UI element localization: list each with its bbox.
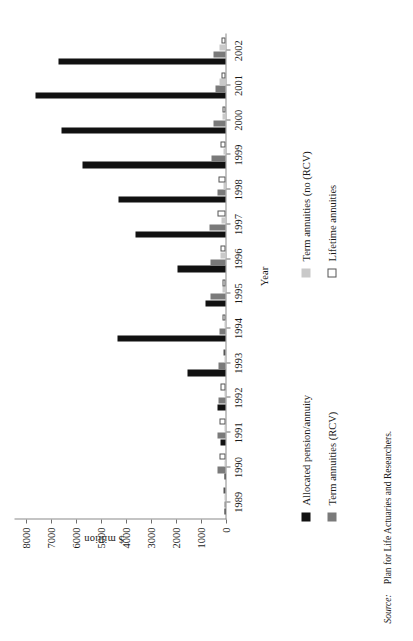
bar bbox=[210, 259, 225, 265]
x-tick-label: 1996 bbox=[232, 248, 243, 269]
x-tick-label: 1991 bbox=[232, 422, 243, 443]
bar bbox=[209, 224, 225, 230]
x-tick-label: 2001 bbox=[232, 75, 243, 96]
x-tick-mark bbox=[226, 327, 230, 328]
x-tick: 1991 bbox=[226, 415, 256, 450]
x-tick: 1992 bbox=[226, 380, 256, 415]
chart-legend: Allocated pension/annuityTerm annuities … bbox=[300, 51, 337, 521]
x-tick-mark bbox=[226, 84, 230, 85]
source-label: Source: bbox=[382, 594, 392, 623]
y-tick-mark bbox=[101, 519, 102, 523]
x-tick: 1997 bbox=[226, 207, 256, 242]
x-tick-mark bbox=[226, 431, 230, 432]
bar bbox=[223, 487, 225, 493]
bar-group bbox=[14, 241, 225, 276]
x-tick: 1995 bbox=[226, 276, 256, 311]
bar bbox=[217, 404, 225, 410]
bar bbox=[224, 425, 225, 431]
bar bbox=[213, 51, 225, 57]
bar-group bbox=[14, 310, 225, 345]
bar-group bbox=[14, 276, 225, 311]
x-tick-mark bbox=[226, 396, 230, 397]
x-tick-mark bbox=[226, 223, 230, 224]
bar bbox=[221, 217, 225, 223]
x-axis-title: Year bbox=[258, 33, 269, 519]
bar bbox=[219, 418, 225, 424]
source-note: Source: Plan for Life Actuaries and Rese… bbox=[382, 430, 392, 623]
legend-item: Term annuities (RCV) bbox=[326, 295, 337, 521]
bar bbox=[210, 293, 225, 299]
y-tick-mark bbox=[176, 519, 177, 523]
x-axis-tick-labels: 1989199019911992199319941995199619971998… bbox=[226, 33, 256, 519]
source-text: Plan for Life Actuaries and Researchers. bbox=[382, 430, 392, 584]
bar bbox=[224, 508, 225, 514]
bar bbox=[211, 155, 225, 161]
bar-group bbox=[14, 414, 225, 449]
filled-darkgray-swatch bbox=[327, 512, 336, 521]
bar bbox=[218, 176, 225, 182]
x-tick-label: 1989 bbox=[232, 491, 243, 512]
x-tick-label: 1993 bbox=[232, 352, 243, 373]
bar bbox=[82, 162, 225, 168]
bar-groups bbox=[14, 33, 225, 518]
x-tick-label: 2002 bbox=[232, 40, 243, 61]
x-tick-mark bbox=[226, 153, 230, 154]
y-tick-label: 0 bbox=[221, 527, 232, 532]
filled-lightgray-swatch bbox=[301, 268, 310, 277]
legend-item: Term annuities (no (RCV) bbox=[300, 51, 311, 277]
y-tick-label: 1000 bbox=[196, 527, 207, 548]
x-tick-label: 1998 bbox=[232, 179, 243, 200]
x-tick: 1996 bbox=[226, 241, 256, 276]
x-tick: 2000 bbox=[226, 102, 256, 137]
bar-group bbox=[14, 345, 225, 380]
bar bbox=[222, 314, 225, 320]
legend-item: Lifetime annuities bbox=[326, 51, 337, 277]
x-tick-label: 2000 bbox=[232, 109, 243, 130]
legend-label: Allocated pension/annuity bbox=[300, 394, 311, 505]
plot-wrapper: $ million 010002000300040005000600070008… bbox=[14, 33, 262, 563]
bar bbox=[222, 286, 225, 292]
x-tick-mark bbox=[226, 466, 230, 467]
y-tick-mark bbox=[76, 519, 77, 523]
x-tick-label: 1999 bbox=[232, 144, 243, 165]
figure-page: $ million 010002000300040005000600070008… bbox=[0, 0, 413, 641]
bar bbox=[221, 37, 225, 43]
bar bbox=[222, 113, 225, 119]
bar bbox=[220, 439, 225, 445]
bar bbox=[61, 127, 225, 133]
x-tick-label: 1995 bbox=[232, 283, 243, 304]
x-tick: 1993 bbox=[226, 345, 256, 380]
bar bbox=[224, 356, 225, 362]
x-tick-label: 1994 bbox=[232, 318, 243, 339]
bar bbox=[35, 92, 225, 98]
bar bbox=[58, 58, 225, 64]
legend-label: Term annuities (no (RCV) bbox=[300, 151, 311, 261]
bar-chart-figure: $ million 010002000300040005000600070008… bbox=[0, 0, 413, 641]
y-tick-mark bbox=[226, 519, 227, 523]
y-tick-mark bbox=[126, 519, 127, 523]
x-tick-label: 1992 bbox=[232, 387, 243, 408]
bar-group bbox=[14, 172, 225, 207]
x-tick-mark bbox=[226, 119, 230, 120]
y-axis-tick-labels: 010002000300040005000600070008000 bbox=[14, 523, 226, 563]
bar bbox=[205, 300, 225, 306]
bar bbox=[220, 141, 225, 147]
legend-label: Lifetime annuities bbox=[326, 184, 337, 261]
plot-area bbox=[14, 33, 226, 519]
y-tick-mark bbox=[26, 519, 27, 523]
x-tick-mark bbox=[226, 501, 230, 502]
x-tick: 2002 bbox=[226, 33, 256, 68]
y-tick-label: 3000 bbox=[146, 527, 157, 548]
bar-group bbox=[14, 137, 225, 172]
y-tick-label: 5000 bbox=[96, 527, 107, 548]
y-tick-label: 7000 bbox=[46, 527, 57, 548]
y-tick-label: 4000 bbox=[121, 527, 132, 548]
x-tick: 1999 bbox=[226, 137, 256, 172]
filled-black-swatch bbox=[301, 512, 310, 521]
y-tick-label: 2000 bbox=[171, 527, 182, 548]
bar bbox=[224, 321, 225, 327]
x-tick-mark bbox=[226, 258, 230, 259]
y-tick-label: 8000 bbox=[21, 527, 32, 548]
bar bbox=[220, 252, 225, 258]
bar bbox=[223, 148, 225, 154]
